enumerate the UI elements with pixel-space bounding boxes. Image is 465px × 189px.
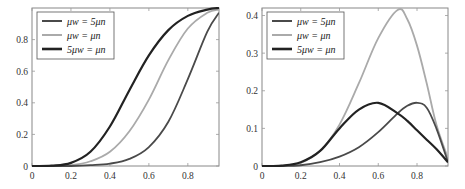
pdf-plot: 00.20.40.60.800.10.20.30.4μw = 5μnμw = μ… (246, 8, 448, 181)
x-tick-label: 0 (30, 171, 35, 181)
x-tick-label: 0.6 (372, 171, 384, 181)
y-tick-label: 0.1 (246, 124, 258, 134)
legend-label: μw = μn (66, 30, 100, 41)
x-tick-label: 0.2 (295, 171, 307, 181)
legend-label: 5μw = μn (297, 44, 335, 55)
y-tick-label: 0.2 (246, 86, 258, 96)
chart-canvas: 00.20.40.60.800.20.40.60.8μw = 5μnμw = μ… (0, 0, 465, 189)
x-tick-label: 0 (260, 171, 265, 181)
y-tick-label: 0 (253, 162, 258, 172)
y-tick-label: 0.3 (246, 49, 258, 59)
legend: μw = 5μnμw = μn5μw = μn (267, 12, 344, 59)
y-tick-label: 0 (23, 162, 28, 172)
y-tick-label: 0.4 (246, 11, 258, 21)
y-tick-label: 0.6 (16, 67, 28, 77)
x-tick-label: 0.4 (334, 171, 346, 181)
x-tick-label: 0.8 (182, 171, 194, 181)
y-tick-label: 0.2 (16, 130, 28, 140)
legend-label: μw = μn (296, 30, 330, 41)
cdf-plot: 00.20.40.60.800.20.40.60.8μw = 5μnμw = μ… (16, 8, 219, 181)
legend-label: 5μw = μn (67, 44, 105, 55)
series-line (262, 103, 448, 166)
y-tick-label: 0.4 (16, 98, 28, 108)
legend-label: μw = 5μn (66, 16, 105, 27)
legend-label: μw = 5μn (296, 16, 335, 27)
x-tick-label: 0.4 (104, 171, 116, 181)
x-tick-label: 0.6 (143, 171, 155, 181)
y-tick-label: 0.8 (16, 35, 28, 45)
legend: μw = 5μnμw = μn5μw = μn (37, 12, 114, 59)
x-tick-label: 0.2 (65, 171, 77, 181)
x-tick-label: 0.8 (411, 171, 423, 181)
